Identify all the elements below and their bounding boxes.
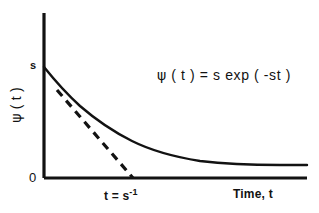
y-axis-title-suffix: ( t ) [8,87,24,113]
x-axis-tick-label-base: t = s [104,189,129,203]
plot-area [0,0,319,213]
origin-label-zero: 0 [29,171,36,184]
x-axis-tick-label: t = s-1 [104,188,138,202]
equation-annotation: ψ ( t ) = s exp ( -st ) [157,68,291,82]
figure-container: s 0 ψ ( t ) t = s-1 Time, t ψ ( t ) = s … [0,0,319,213]
equation-body: ( t ) = s exp ( -st ) [167,67,291,83]
y-axis-tick-label-s: s [30,60,36,71]
y-axis-title-psi-symbol: ψ [8,113,24,122]
x-axis-tick-label-exponent: -1 [129,187,137,197]
equation-psi-symbol: ψ [157,67,167,83]
tangent-dashed-line [57,90,133,178]
y-axis-title: ψ ( t ) [9,73,23,137]
x-axis-title: Time, t [233,188,273,200]
